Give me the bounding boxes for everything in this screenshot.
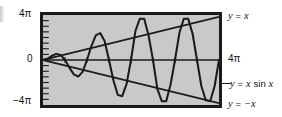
curve-label-y-equals-x-sin-x: y = x sin x — [230, 79, 273, 90]
y-axis-label-top: 4π — [19, 9, 31, 19]
plot-area — [40, 12, 222, 108]
figure-graph-x-sin-x: 4π 0 −4π 4π y = x y = x sin x y = −x — [0, 0, 282, 117]
y-axis-label-zero: 0 — [27, 54, 33, 64]
x-axis-label-right: 4π — [228, 54, 240, 64]
curve-label-y-equals-x: y = x — [228, 11, 249, 22]
curve-label-y-equals-neg-x: y = −x — [228, 99, 256, 110]
curve-label-y-equals-neg-x-eq: = — [233, 98, 244, 109]
curve-label-y-equals-neg-x-rhs: −x — [244, 98, 256, 109]
curve-label-y-equals-x-rhs: x — [244, 10, 249, 21]
curve-label-x-sin-x-arg: x — [269, 78, 274, 89]
y-axis-label-bottom: −4π — [13, 96, 31, 106]
page-edge-artifact — [0, 6, 5, 22]
curve-label-y-equals-x-eq: = — [233, 10, 244, 21]
curve-label-x-sin-x-eq: = — [235, 78, 246, 89]
plot-canvas — [43, 15, 219, 105]
curve-label-x-sin-x-fn: sin — [251, 78, 269, 89]
